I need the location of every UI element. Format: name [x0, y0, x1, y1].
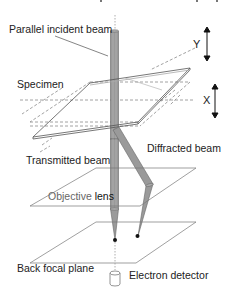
transmitted-spot	[113, 238, 117, 242]
y-direction-arrow	[204, 27, 210, 61]
label-objective-lens-part1: Objective	[48, 190, 95, 202]
diffracted-spot	[136, 234, 140, 238]
label-back-focal-plane: Back focal plane	[17, 263, 94, 274]
label-diffracted-beam: Diffracted beam	[147, 143, 221, 154]
label-axis-x: X	[203, 95, 210, 106]
incident-beam-pointer	[55, 36, 108, 56]
label-objective-lens-part2: lens	[95, 190, 114, 202]
label-specimen: Specimen	[17, 79, 64, 90]
label-electron-detector: Electron detector	[129, 270, 208, 281]
electron-detector-icon	[110, 271, 120, 286]
label-objective-lens: Objective lens	[48, 191, 114, 202]
label-parallel-incident-beam: Parallel incident beam	[9, 24, 112, 35]
label-axis-y: Y	[193, 39, 200, 50]
label-transmitted-beam: Transmitted beam	[26, 155, 110, 166]
clipped-top-text	[100, 0, 218, 2]
x-direction-arrow	[212, 84, 218, 118]
